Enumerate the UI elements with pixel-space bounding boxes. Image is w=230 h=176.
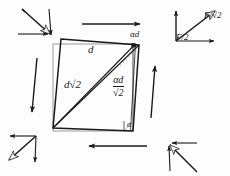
corner-bottom-left-vector-group <box>9 136 36 162</box>
right-shear-arrow <box>151 66 155 118</box>
corner-bottom-right-vector-group <box>169 143 197 172</box>
label-force-resultant: F/√2 <box>204 11 221 20</box>
label-diagonal-d-sqrt2: d√2 <box>64 79 81 90</box>
label-force-horizontal: F/2 <box>176 33 189 42</box>
label-angle-alpha: α <box>127 121 131 129</box>
fraction-numerator: αd <box>113 75 124 86</box>
shear-deformation-figure: d αd d√2 α αd √2 F/√2 F/2 <box>0 0 230 176</box>
corner-top-left-vector-group <box>18 9 51 35</box>
corner-vertex-marker <box>131 43 135 47</box>
label-side-d: d <box>88 44 94 55</box>
right-edge-double-line <box>131 44 136 131</box>
label-diagonal-extension-fraction: αd √2 <box>113 75 124 98</box>
label-shear-offset-alpha-d: αd <box>130 30 139 39</box>
fraction-denominator: √2 <box>113 88 124 99</box>
left-shear-arrow <box>32 58 37 112</box>
